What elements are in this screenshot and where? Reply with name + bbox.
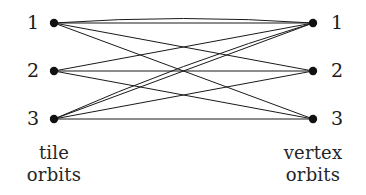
left-caption-line1: tile xyxy=(0,142,124,164)
edges-group xyxy=(54,19,313,120)
left-caption: tile orbits xyxy=(0,142,124,186)
bipartite-graph-figure: 1 2 3 1 2 3 tile orbits vertex orbits xyxy=(0,0,366,195)
right-caption: vertex orbits xyxy=(243,142,366,186)
left-caption-line2: orbits xyxy=(0,164,124,186)
right-node-3 xyxy=(309,115,317,123)
right-node-label-1: 1 xyxy=(326,13,348,32)
left-node-2 xyxy=(50,67,58,75)
right-node-2 xyxy=(309,67,317,75)
left-node-label-1: 1 xyxy=(22,13,44,32)
left-node-label-2: 2 xyxy=(22,61,44,80)
left-node-label-3: 3 xyxy=(22,109,44,128)
right-node-label-3: 3 xyxy=(326,109,348,128)
right-node-label-2: 2 xyxy=(326,61,348,80)
left-node-3 xyxy=(50,115,58,123)
graph-edge xyxy=(54,19,313,24)
right-caption-line2: orbits xyxy=(243,164,366,186)
left-node-1 xyxy=(50,19,58,27)
right-caption-line1: vertex xyxy=(243,142,366,164)
right-node-1 xyxy=(309,19,317,27)
